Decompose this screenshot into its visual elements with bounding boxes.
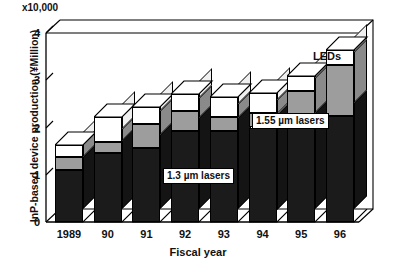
y-tick-label-3: 3 <box>26 74 40 86</box>
bar-segment-93-1-55-m-lasers <box>210 117 238 131</box>
bar-top-face-94 <box>249 79 293 95</box>
bar-segment-1989-1-55-m-lasers <box>55 157 83 170</box>
y-tick-2 <box>46 121 53 128</box>
y-tick-label-4: 4 <box>26 27 40 39</box>
bar-foot-94 <box>249 209 293 225</box>
bar-foot-91 <box>132 209 176 225</box>
bar-top-face-95 <box>287 62 331 78</box>
bar-segment-95-leds <box>287 76 315 91</box>
y-tick-1 <box>46 168 53 175</box>
annotation-155um-lasers: 1.55 µm lasers <box>252 113 329 129</box>
bar-segment-91-1-55-m-lasers <box>132 124 160 148</box>
bar-segment-90-1-55-m-lasers <box>94 142 122 154</box>
bar-foot-93 <box>210 209 254 225</box>
bar-foot-90 <box>94 209 138 225</box>
annotation-13um-lasers: 1.3 µm lasers <box>163 168 234 184</box>
bar-top-face-90 <box>94 103 138 119</box>
chart-figure: x10,000 InP-based device production (¥Mi… <box>0 0 396 272</box>
x-tick-label-96: 96 <box>316 228 364 240</box>
bar-foot-96 <box>326 209 370 225</box>
y-tick-label-1: 1 <box>26 169 40 181</box>
bar-segment-92-leds <box>171 94 199 111</box>
y-tick-label-0: 0 <box>26 216 40 228</box>
bar-foot-1989 <box>55 209 99 225</box>
bar-segment-91-leds <box>132 107 160 124</box>
bar-segment-93-leds <box>210 97 238 117</box>
bar-segment-95-1-3-m-lasers <box>287 126 315 222</box>
bar-top-face-91 <box>132 93 176 109</box>
bar-top-face-1989 <box>55 131 99 147</box>
bar-segment-96-1-55-m-lasers <box>326 65 354 116</box>
annotation-leds: LEDs <box>313 50 341 62</box>
bar-segment-96-1-3-m-lasers <box>326 116 354 222</box>
bar-foot-92 <box>171 209 215 225</box>
bar-top-face-92 <box>171 80 215 96</box>
bar-segment-92-1-55-m-lasers <box>171 111 199 131</box>
y-tick-label-2: 2 <box>26 122 40 134</box>
plot-area: 4 3 2 1 0 1.3 µm lasers 1.55 µm lasers L… <box>0 0 396 272</box>
bar-segment-94-leds <box>249 93 277 113</box>
bar-segment-94-1-3-m-lasers <box>249 128 277 223</box>
bar-foot-95 <box>287 209 331 225</box>
bar-segment-90-leds <box>94 117 122 142</box>
bar-top-face-93 <box>210 83 254 99</box>
x-axis-title: Fiscal year <box>0 246 396 258</box>
y-tick-4 <box>46 26 53 33</box>
y-tick-3 <box>46 73 53 80</box>
bar-side-96-1-3-m-lasers <box>354 90 367 209</box>
